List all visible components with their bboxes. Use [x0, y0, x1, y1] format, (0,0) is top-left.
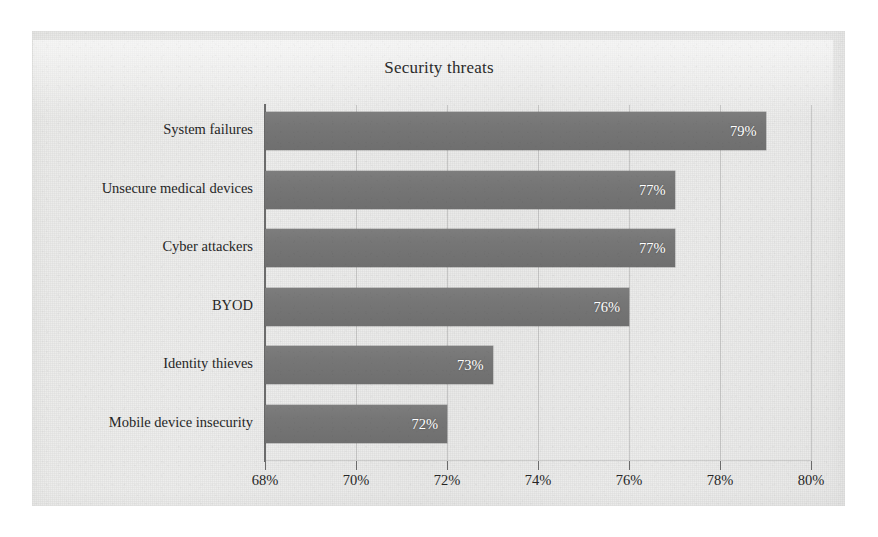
x-tick-mark [447, 461, 448, 470]
bar-value-label: 72% [411, 415, 438, 432]
x-tick-label: 70% [326, 472, 386, 489]
bar-row: 76% [265, 288, 811, 326]
category-label: Cyber attackers [3, 238, 253, 255]
bar-row: 72% [265, 405, 811, 443]
category-label: System failures [3, 121, 253, 138]
bar-value-label: 77% [639, 181, 666, 198]
bar-value-label: 79% [730, 123, 757, 140]
bar-row: 77% [265, 229, 811, 267]
x-tick-label: 78% [690, 472, 750, 489]
chart-title: Security threats [0, 58, 878, 78]
category-label: Mobile device insecurity [3, 414, 253, 431]
x-tick-mark [629, 461, 630, 470]
bar-row: 79% [265, 112, 811, 150]
bar: 72% [265, 405, 447, 443]
x-tick-label: 76% [599, 472, 659, 489]
bar-value-label: 76% [593, 298, 620, 315]
plot-area: 79%77%77%76%73%72% [265, 105, 811, 460]
bar: 76% [265, 288, 629, 326]
chart-figure: Security threats 79%77%77%76%73%72% 68%7… [0, 0, 878, 537]
bar: 79% [265, 112, 766, 150]
bar-row: 77% [265, 171, 811, 209]
x-tick-label: 80% [781, 472, 841, 489]
x-tick-mark [538, 461, 539, 470]
bar-value-label: 77% [639, 240, 666, 257]
bar: 77% [265, 171, 675, 209]
bar: 73% [265, 346, 493, 384]
x-tick-mark [720, 461, 721, 470]
category-label: BYOD [3, 297, 253, 314]
bar-row: 73% [265, 346, 811, 384]
x-tick-label: 68% [235, 472, 295, 489]
x-tick-label: 72% [417, 472, 477, 489]
x-tick-mark [265, 461, 266, 470]
gridline-80 [811, 105, 812, 460]
category-label: Identity thieves [3, 355, 253, 372]
bar-value-label: 73% [457, 357, 484, 374]
category-label: Unsecure medical devices [3, 180, 253, 197]
bar: 77% [265, 229, 675, 267]
x-tick-label: 74% [508, 472, 568, 489]
x-tick-mark [356, 461, 357, 470]
x-tick-mark [811, 461, 812, 470]
